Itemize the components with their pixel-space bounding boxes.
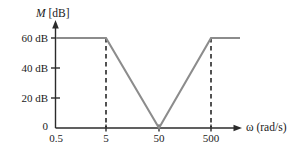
y-axis-title-unit: [dB] — [46, 7, 70, 19]
x-axis — [56, 125, 243, 132]
x-axis-title: ω (rad/s) — [246, 122, 286, 134]
breakpoint-dashed-lines — [106, 38, 211, 127]
x-tick-label-500: 500 — [197, 133, 225, 144]
x-tick-label-0-5: 0.5 — [42, 133, 70, 144]
x-tick-label-50: 50 — [148, 133, 170, 144]
bode-magnitude-figure: M [dB] ω (rad/s) 60 dB 40 dB 20 dB 0 0.5… — [0, 0, 292, 152]
y-tick-label-20db: 20 dB — [9, 93, 48, 104]
y-tick-label-0: 0 — [9, 121, 48, 132]
y-tick-label-60db: 60 dB — [9, 33, 48, 44]
y-axis-title-symbol: M — [36, 7, 46, 19]
magnitude-curve — [56, 38, 240, 128]
y-axis-title: M [dB] — [36, 8, 70, 20]
x-tick-label-5: 5 — [95, 133, 117, 144]
y-tick-label-40db: 40 dB — [9, 63, 48, 74]
y-axis — [52, 20, 59, 128]
